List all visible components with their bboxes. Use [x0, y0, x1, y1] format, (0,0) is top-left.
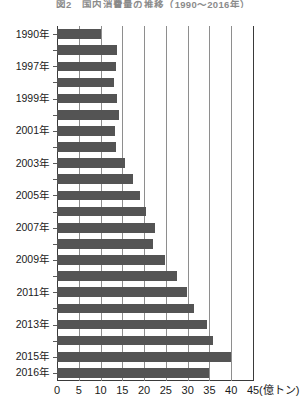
- bar-2014年: [57, 336, 213, 346]
- bar-row: [57, 158, 253, 168]
- bar-row: [57, 223, 253, 233]
- bar-row: [57, 352, 253, 362]
- bar-1997年: [57, 62, 116, 72]
- bar-row: [57, 126, 253, 136]
- y-axis-label-2016年: 2016年: [16, 367, 49, 378]
- plot-area: [57, 26, 253, 381]
- y-axis-category-labels: 1990年1997年1999年2001年2003年2005年2007年2009年…: [0, 26, 57, 381]
- bar-2010年: [57, 271, 177, 281]
- bar-2000年: [57, 110, 119, 120]
- x-axis-label-10: 10: [94, 384, 106, 397]
- y-axis-label-2009年: 2009年: [16, 254, 49, 265]
- y-axis-label-2011年: 2011年: [16, 287, 49, 298]
- x-axis-label-25: 25: [160, 384, 172, 397]
- bar-row: [57, 255, 253, 265]
- bar-2009年: [57, 255, 165, 265]
- bar-2015年: [57, 352, 231, 362]
- bar-row: [57, 94, 253, 104]
- y-axis-label-2003年: 2003年: [16, 158, 49, 169]
- bar-2011年: [57, 287, 187, 297]
- x-axis-tick-labels: 051015202530354045(億トン): [0, 384, 306, 402]
- bar-row: [57, 174, 253, 184]
- x-axis-label-45: 45: [247, 384, 259, 397]
- bar-row: [57, 142, 253, 152]
- x-axis-label-15: 15: [116, 384, 128, 397]
- bar-row: [57, 207, 253, 217]
- y-axis-label-1999年: 1999年: [16, 93, 49, 104]
- bar-row: [57, 304, 253, 314]
- bar-2013年: [57, 320, 207, 330]
- x-axis-label-5: 5: [76, 384, 82, 397]
- bar-2016年: [57, 368, 209, 378]
- x-axis-label-0: 0: [54, 384, 60, 397]
- bar-row: [57, 271, 253, 281]
- x-axis-label-20: 20: [138, 384, 150, 397]
- bar-row: [57, 78, 253, 88]
- x-axis-label-40: 40: [225, 384, 237, 397]
- bar-row: [57, 320, 253, 330]
- bar-2004年: [57, 174, 133, 184]
- bar-1999年: [57, 94, 117, 104]
- bar-row: [57, 110, 253, 120]
- bar-1998年: [57, 78, 114, 88]
- bar-row: [57, 29, 253, 39]
- bar-1990年: [57, 29, 101, 39]
- y-axis-label-2013年: 2013年: [16, 319, 49, 330]
- y-axis-label-2007年: 2007年: [16, 222, 49, 233]
- y-axis-label-1990年: 1990年: [16, 29, 49, 40]
- chart-title: 図2 国内消費量の推移（1990〜2016年）: [0, 0, 306, 8]
- bar-2008年: [57, 239, 153, 249]
- bar-2003年: [57, 158, 125, 168]
- bar-1996年: [57, 45, 117, 55]
- y-axis-label-2015年: 2015年: [16, 351, 49, 362]
- y-axis-label-2001年: 2001年: [16, 125, 49, 136]
- bar-row: [57, 287, 253, 297]
- gridline-45: [253, 26, 254, 381]
- x-axis-label-30: 30: [182, 384, 194, 397]
- bar-chart: 図2 国内消費量の推移（1990〜2016年） 1990年1997年1999年2…: [0, 0, 306, 409]
- y-axis-label-2005年: 2005年: [16, 190, 49, 201]
- bar-row: [57, 239, 253, 249]
- bar-row: [57, 336, 253, 346]
- bar-2012年: [57, 304, 194, 314]
- bar-row: [57, 368, 253, 378]
- y-axis-label-1997年: 1997年: [16, 61, 49, 72]
- x-axis-unit-label: (億トン): [259, 384, 299, 397]
- bar-2007年: [57, 223, 155, 233]
- bar-2005年: [57, 191, 140, 201]
- bar-series: [57, 26, 253, 381]
- bar-row: [57, 191, 253, 201]
- bar-row: [57, 45, 253, 55]
- bar-2001年: [57, 126, 115, 136]
- bar-2002年: [57, 142, 116, 152]
- bar-row: [57, 62, 253, 72]
- bar-2006年: [57, 207, 146, 217]
- x-axis-label-35: 35: [203, 384, 215, 397]
